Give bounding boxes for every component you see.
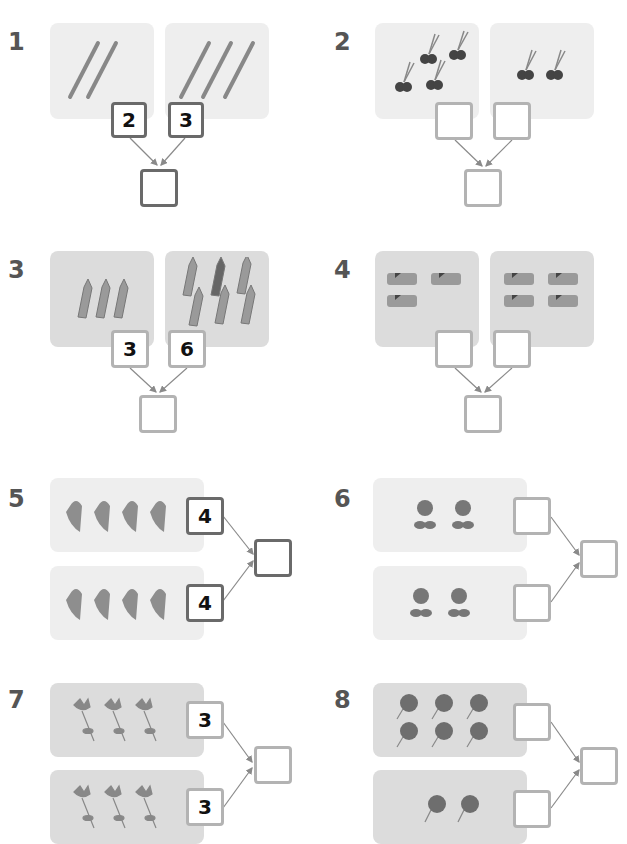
answer-box-total[interactable] <box>140 169 178 207</box>
tulip-icon <box>64 496 174 536</box>
group-panel-top <box>50 683 204 757</box>
rose-icon <box>395 691 495 751</box>
answer-box-right[interactable]: 3 <box>168 102 204 138</box>
answer-box-bottom[interactable] <box>513 584 551 622</box>
answer-box-bottom[interactable]: 4 <box>186 584 224 622</box>
daisy-icon <box>70 697 170 747</box>
answer-box-right[interactable] <box>493 102 531 140</box>
group-panel-top <box>50 478 204 552</box>
answer-box-top[interactable] <box>513 703 551 741</box>
eraser-icon <box>387 269 467 309</box>
answer-box-right[interactable] <box>493 330 531 368</box>
exercise-number: 1 <box>8 30 25 54</box>
answer-box-total[interactable] <box>254 539 292 577</box>
rose-icon <box>423 792 493 832</box>
exercise-number: 7 <box>8 688 25 712</box>
group-panel-bottom <box>50 566 204 640</box>
scissors-icon <box>383 29 473 109</box>
exercise-number: 6 <box>334 487 351 511</box>
exercise-number: 8 <box>334 688 351 712</box>
answer-box-left[interactable] <box>435 330 473 368</box>
exercise-number: 3 <box>8 258 25 282</box>
eraser-icon <box>504 269 584 309</box>
answer-box-right[interactable]: 6 <box>168 330 206 368</box>
exercise-number: 4 <box>334 258 351 282</box>
pencil-icon <box>173 37 263 107</box>
crayon-icon <box>70 273 140 323</box>
answer-box-total[interactable] <box>580 540 618 578</box>
crayon-icon <box>173 257 263 337</box>
answer-box-top[interactable]: 3 <box>186 701 224 739</box>
flower-icon <box>411 492 481 538</box>
group-panel-top <box>373 683 527 757</box>
answer-box-bottom[interactable]: 3 <box>186 788 224 826</box>
answer-box-left[interactable] <box>435 102 473 140</box>
answer-box-total[interactable] <box>464 169 502 207</box>
answer-box-total[interactable] <box>580 747 618 785</box>
answer-box-top[interactable]: 4 <box>186 497 224 535</box>
answer-box-top[interactable] <box>513 497 551 535</box>
exercise-number: 5 <box>8 487 25 511</box>
group-panel-bottom <box>373 770 527 844</box>
tulip-icon <box>64 584 174 624</box>
group-panel-bottom <box>50 770 204 844</box>
answer-box-left[interactable]: 2 <box>111 102 147 138</box>
answer-box-left[interactable]: 3 <box>111 330 149 368</box>
pencil-icon <box>64 37 134 107</box>
group-panel-bottom <box>373 566 527 640</box>
flower-icon <box>407 580 477 626</box>
answer-box-total[interactable] <box>139 395 177 433</box>
scissors-icon <box>508 41 578 91</box>
exercise-number: 2 <box>334 30 351 54</box>
answer-box-total[interactable] <box>464 395 502 433</box>
group-panel-top <box>373 478 527 552</box>
answer-box-total[interactable] <box>254 746 292 784</box>
answer-box-bottom[interactable] <box>513 790 551 828</box>
daisy-icon <box>70 784 170 834</box>
